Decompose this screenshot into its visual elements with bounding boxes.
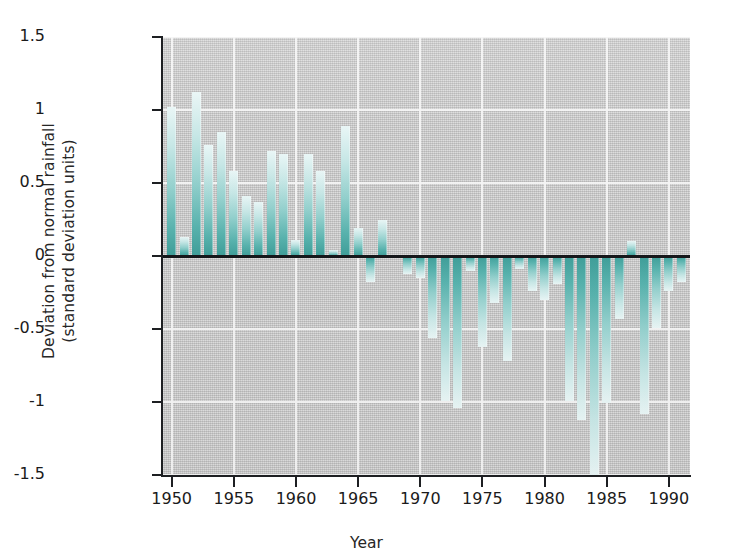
bar-1962 xyxy=(316,171,325,256)
bar-1954 xyxy=(217,132,226,256)
bar-1967 xyxy=(378,220,387,257)
bar-1974 xyxy=(466,256,475,271)
y-tick-mark xyxy=(152,182,161,184)
y-axis-title-line-2: (standard deviation units) xyxy=(59,139,79,342)
y-tick-mark xyxy=(152,255,161,257)
y-tick-label--0.5: -0.5 xyxy=(0,318,45,337)
bar-1986 xyxy=(615,256,624,319)
x-axis-spine xyxy=(161,475,691,477)
bar-1969 xyxy=(403,256,412,274)
y-tick-label-0.5: 0.5 xyxy=(0,172,45,191)
bar-1991 xyxy=(677,256,686,282)
bar-1980 xyxy=(540,256,549,300)
x-tick-label-1950: 1950 xyxy=(137,489,207,508)
bar-1956 xyxy=(242,196,251,256)
bar-1957 xyxy=(254,202,263,256)
bar-1976 xyxy=(490,256,499,303)
bar-1960 xyxy=(291,240,300,256)
bar-1983 xyxy=(577,256,586,420)
x-tick-mark xyxy=(544,477,546,487)
y-tick-mark xyxy=(152,109,161,111)
bar-1970 xyxy=(416,256,425,278)
x-tick-mark xyxy=(295,477,297,487)
bar-1985 xyxy=(602,256,611,403)
x-tick-label-1970: 1970 xyxy=(385,489,455,508)
gridline-h xyxy=(163,37,690,38)
y-tick-mark xyxy=(152,474,161,476)
bar-1973 xyxy=(453,256,462,408)
gridline-h xyxy=(163,182,690,184)
bar-1958 xyxy=(267,151,276,256)
x-tick-label-1960: 1960 xyxy=(261,489,331,508)
bar-1975 xyxy=(478,256,487,347)
bar-1965 xyxy=(354,228,363,256)
rainfall-deviation-figure: Deviation from normal rainfall (standard… xyxy=(0,0,733,559)
bar-1951 xyxy=(180,237,189,256)
bar-1952 xyxy=(192,92,201,256)
y-tick-mark xyxy=(152,36,161,38)
bar-1979 xyxy=(528,256,537,291)
y-axis-spine xyxy=(161,36,163,477)
bar-1950 xyxy=(167,107,176,256)
x-tick-mark xyxy=(668,477,670,487)
y-tick-label-0: 0 xyxy=(0,245,45,264)
gridline-h xyxy=(163,109,690,111)
bar-1966 xyxy=(366,256,375,282)
x-tick-label-1975: 1975 xyxy=(447,489,517,508)
x-tick-label-1955: 1955 xyxy=(199,489,269,508)
bar-1987 xyxy=(627,241,636,256)
bar-1953 xyxy=(204,145,213,256)
bar-1990 xyxy=(664,256,673,291)
y-tick-label--1.5: -1.5 xyxy=(0,464,45,483)
x-tick-mark xyxy=(606,477,608,487)
y-tick-label-1: 1 xyxy=(0,99,45,118)
zero-baseline xyxy=(163,255,690,258)
bar-1972 xyxy=(441,256,450,401)
bar-1964 xyxy=(341,126,350,256)
bar-1984 xyxy=(590,256,599,475)
x-tick-mark xyxy=(419,477,421,487)
x-tick-mark xyxy=(357,477,359,487)
bar-1961 xyxy=(304,154,313,256)
x-tick-label-1980: 1980 xyxy=(510,489,580,508)
x-tick-label-1985: 1985 xyxy=(572,489,642,508)
x-tick-label-1965: 1965 xyxy=(323,489,393,508)
y-tick-label--1: -1 xyxy=(0,391,45,410)
bar-1989 xyxy=(652,256,661,328)
x-tick-mark xyxy=(233,477,235,487)
y-tick-mark xyxy=(152,401,161,403)
plot-area xyxy=(163,37,690,475)
bar-1981 xyxy=(553,256,562,284)
x-axis-title: Year xyxy=(0,534,733,552)
bar-1955 xyxy=(229,171,238,256)
y-tick-mark xyxy=(152,328,161,330)
bar-1982 xyxy=(565,256,574,401)
y-tick-label-1.5: 1.5 xyxy=(0,26,45,45)
bar-1971 xyxy=(428,256,437,338)
bar-1988 xyxy=(640,256,649,414)
x-tick-mark xyxy=(481,477,483,487)
bar-1959 xyxy=(279,154,288,256)
x-tick-mark xyxy=(171,477,173,487)
x-tick-label-1990: 1990 xyxy=(634,489,704,508)
bar-1977 xyxy=(503,256,512,361)
